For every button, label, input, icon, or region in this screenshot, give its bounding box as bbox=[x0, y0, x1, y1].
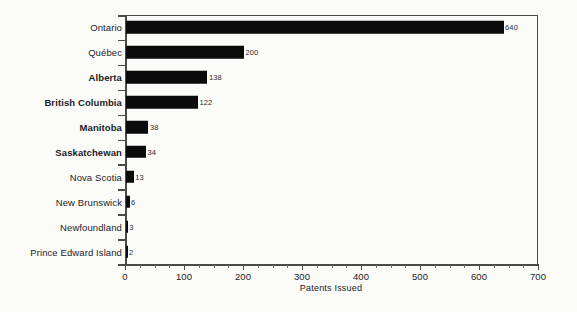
category-label: Manitoba bbox=[80, 122, 123, 133]
x-axis-minor-tick bbox=[450, 265, 451, 268]
x-axis-major-tick bbox=[302, 265, 303, 270]
x-axis-tick-label: 200 bbox=[235, 271, 251, 282]
x-axis-minor-tick bbox=[405, 265, 406, 268]
category-label: Saskatchewan bbox=[55, 146, 122, 157]
x-axis-minor-tick bbox=[464, 265, 465, 268]
bar-value-label: 200 bbox=[246, 48, 259, 57]
bar bbox=[126, 96, 198, 109]
bar-row: Newfoundland3 bbox=[0, 214, 577, 239]
x-axis-minor-tick bbox=[376, 265, 377, 268]
bar bbox=[126, 71, 207, 84]
x-axis-minor-tick bbox=[155, 265, 156, 268]
bar-row: Alberta138 bbox=[0, 65, 577, 90]
category-label: British Columbia bbox=[44, 97, 122, 108]
x-axis-minor-tick bbox=[214, 265, 215, 268]
bar bbox=[126, 146, 146, 159]
x-axis-minor-tick bbox=[332, 265, 333, 268]
category-label: Prince Edward Island bbox=[30, 246, 122, 257]
bar bbox=[126, 121, 148, 134]
bar-row: Saskatchewan34 bbox=[0, 140, 577, 165]
bar-value-label: 13 bbox=[135, 172, 144, 181]
x-axis-minor-tick bbox=[169, 265, 170, 268]
bar bbox=[126, 21, 504, 34]
bar-row: British Columbia122 bbox=[0, 90, 577, 115]
x-axis-major-tick bbox=[243, 265, 244, 270]
bar-value-label: 122 bbox=[199, 98, 212, 107]
category-label: New Brunswick bbox=[56, 196, 122, 207]
x-axis-minor-tick bbox=[228, 265, 229, 268]
x-axis-major-tick bbox=[479, 265, 480, 270]
x-axis-tick-label: 0 bbox=[122, 271, 127, 282]
x-axis-minor-tick bbox=[509, 265, 510, 268]
x-axis-minor-tick bbox=[346, 265, 347, 268]
x-axis-major-tick bbox=[538, 265, 539, 270]
bar bbox=[126, 46, 244, 59]
bar bbox=[126, 245, 128, 258]
category-label: Nova Scotia bbox=[70, 171, 122, 182]
category-label: Alberta bbox=[89, 72, 122, 83]
x-axis-minor-tick bbox=[435, 265, 436, 268]
bar-row: Manitoba38 bbox=[0, 115, 577, 140]
x-axis-minor-tick bbox=[140, 265, 141, 268]
x-axis-minor-tick bbox=[391, 265, 392, 268]
category-label: Ontario bbox=[90, 22, 122, 33]
bar-value-label: 640 bbox=[505, 23, 518, 32]
x-axis-major-tick bbox=[420, 265, 421, 270]
bar-value-label: 6 bbox=[131, 197, 135, 206]
bar-row: New Brunswick6 bbox=[0, 189, 577, 214]
category-label: Québec bbox=[88, 47, 122, 58]
bar-row: Québec200 bbox=[0, 40, 577, 65]
bar bbox=[126, 171, 134, 184]
x-axis-major-tick bbox=[361, 265, 362, 270]
x-axis-minor-tick bbox=[287, 265, 288, 268]
chart-page: Ontario640Québec200Alberta138British Col… bbox=[0, 0, 577, 312]
x-axis-tick-label: 300 bbox=[294, 271, 310, 282]
x-axis-tick-label: 700 bbox=[530, 271, 546, 282]
bar-row: Nova Scotia13 bbox=[0, 164, 577, 189]
category-label: Newfoundland bbox=[60, 221, 122, 232]
x-axis-major-tick bbox=[184, 265, 185, 270]
bar-value-label: 34 bbox=[148, 147, 157, 156]
bar-value-label: 138 bbox=[209, 73, 222, 82]
x-axis-tick-label: 500 bbox=[412, 271, 428, 282]
bar-row: Ontario640 bbox=[0, 15, 577, 40]
x-axis-title: Patents Issued bbox=[300, 283, 362, 293]
bar-row: Prince Edward Island2 bbox=[0, 239, 577, 264]
bar-value-label: 3 bbox=[129, 222, 133, 231]
bar-value-label: 2 bbox=[129, 247, 133, 256]
x-axis-tick-label: 400 bbox=[353, 271, 369, 282]
x-axis-tick-label: 600 bbox=[471, 271, 487, 282]
x-axis-minor-tick bbox=[494, 265, 495, 268]
bar bbox=[126, 195, 130, 208]
x-axis-minor-tick bbox=[258, 265, 259, 268]
x-axis-tick-label: 100 bbox=[176, 271, 192, 282]
x-axis-major-tick bbox=[125, 265, 126, 270]
x-axis-minor-tick bbox=[317, 265, 318, 268]
bar-value-label: 38 bbox=[150, 123, 159, 132]
x-axis-minor-tick bbox=[273, 265, 274, 268]
x-axis-minor-tick bbox=[199, 265, 200, 268]
bar bbox=[126, 220, 128, 233]
x-axis-minor-tick bbox=[523, 265, 524, 268]
